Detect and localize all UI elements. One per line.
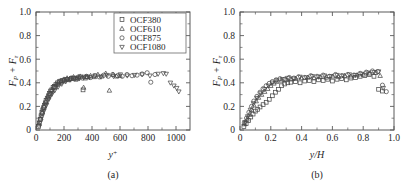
y-tick-label: 0.4 bbox=[19, 78, 31, 88]
marker-square bbox=[298, 81, 302, 85]
x-tick-label: 0 bbox=[238, 133, 243, 143]
x-tick-label: 0.8 bbox=[357, 133, 369, 143]
marker-square bbox=[377, 87, 381, 91]
marker-triangle-up bbox=[81, 85, 86, 89]
y-tick-label: 1.0 bbox=[19, 7, 31, 17]
y-title-F2: + F bbox=[7, 57, 18, 76]
marker-triangle-down bbox=[177, 90, 182, 94]
marker-square bbox=[344, 78, 348, 82]
series-OCF875 bbox=[37, 71, 157, 128]
panel-caption: (b) bbox=[311, 169, 323, 181]
y-tick-label: 0 bbox=[230, 125, 235, 135]
y-tick-label: 0.6 bbox=[223, 55, 235, 65]
x-tick-label: 1000 bbox=[167, 133, 186, 143]
y-tick-label: 0.2 bbox=[19, 102, 31, 112]
x-tick-label: 0 bbox=[34, 133, 39, 143]
x-title-main: y/H bbox=[309, 149, 325, 160]
y-tick-label: 0.6 bbox=[19, 55, 31, 65]
x-axis-title: y+ bbox=[107, 149, 117, 161]
y-tick-label: 0.4 bbox=[223, 78, 235, 88]
panel-a-svg: 0200400600800100000.20.40.60.81.0FP + Fτ… bbox=[0, 0, 204, 194]
panel-b-svg: 00.20.40.60.81.000.20.40.60.81.0FP + Fτy… bbox=[204, 0, 408, 194]
marker-square bbox=[331, 79, 335, 83]
marker-triangle-down bbox=[148, 74, 153, 78]
x-tick-label: 200 bbox=[57, 133, 72, 143]
y-title-F2: + F bbox=[211, 57, 222, 76]
y-axis-title: FP + Fτ bbox=[7, 55, 20, 87]
marker-square bbox=[312, 80, 316, 84]
series-OCF1080 bbox=[243, 70, 386, 125]
x-tick-label: 400 bbox=[85, 133, 100, 143]
panel-caption: (a) bbox=[107, 169, 118, 181]
chart-panel-b: 00.20.40.60.81.000.20.40.60.81.0FP + Fτy… bbox=[204, 0, 408, 194]
y-axis-title: FP + Fτ bbox=[211, 55, 224, 87]
x-tick-label: 1.0 bbox=[388, 133, 400, 143]
legend-label: OCF1080 bbox=[130, 42, 166, 52]
series-OCF380 bbox=[242, 73, 384, 129]
x-tick-label: 800 bbox=[141, 133, 156, 143]
y-tick-label: 0.8 bbox=[223, 31, 235, 41]
marker-circle bbox=[149, 80, 153, 84]
x-title-sup: + bbox=[113, 149, 118, 157]
x-tick-label: 600 bbox=[113, 133, 128, 143]
plot-frame bbox=[240, 12, 394, 130]
figure-container: 0200400600800100000.20.40.60.81.0FP + Fτ… bbox=[0, 0, 408, 194]
x-tick-label: 0.4 bbox=[296, 133, 308, 143]
x-tick-label: 0.6 bbox=[326, 133, 338, 143]
x-tick-label: 0.2 bbox=[265, 133, 277, 143]
y-tick-label: 0.8 bbox=[19, 31, 31, 41]
y-tick-label: 1.0 bbox=[223, 7, 235, 17]
marker-circle bbox=[384, 90, 388, 94]
y-tick-label: 0 bbox=[26, 125, 31, 135]
chart-panel-a: 0200400600800100000.20.40.60.81.0FP + Fτ… bbox=[0, 0, 204, 194]
y-tick-label: 0.2 bbox=[223, 102, 235, 112]
marker-triangle-up bbox=[107, 88, 112, 92]
x-axis-title: y/H bbox=[309, 149, 325, 160]
